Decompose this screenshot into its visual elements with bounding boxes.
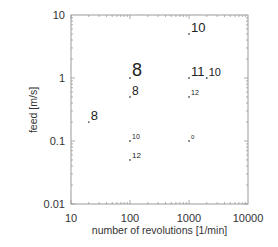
point-marker [129, 159, 131, 161]
data-point: 12 [188, 89, 199, 98]
x-tick-label: 1000 [177, 212, 201, 224]
point-label: 0 [191, 134, 195, 140]
scatter-chart: 10100100010000 1010.10.01 88810121011101… [0, 0, 278, 247]
point-label: 12 [132, 151, 141, 160]
x-tick-label: 100 [121, 212, 139, 224]
y-tick-label: 1 [59, 72, 65, 84]
data-point: 8 [88, 108, 98, 123]
x-tick-labels: 10100100010000 [65, 212, 263, 224]
data-point: 11 [188, 64, 204, 79]
point-label: 8 [132, 84, 139, 98]
data-point: 0 [188, 134, 195, 142]
data-point: 12 [129, 151, 141, 161]
point-marker [129, 77, 131, 79]
point-marker [129, 140, 131, 142]
point-label: 10 [209, 66, 221, 78]
point-label: 8 [91, 108, 98, 123]
point-label: 10 [132, 133, 140, 140]
point-marker [188, 33, 190, 35]
data-points: 8881012101110120 [88, 20, 221, 161]
point-marker [188, 77, 190, 79]
data-point: 10 [129, 133, 140, 142]
y-tick-label: 10 [53, 9, 65, 21]
point-marker [206, 77, 208, 79]
point-marker [88, 121, 90, 123]
point-marker [188, 96, 190, 98]
data-point: 8 [129, 84, 139, 98]
x-tick-label: 10 [65, 212, 77, 224]
point-label: 12 [191, 89, 199, 96]
data-point: 8 [129, 60, 142, 80]
point-label: 11 [191, 64, 205, 79]
y-axis-label: feed [m/s] [27, 87, 39, 133]
data-point: 10 [206, 66, 221, 79]
x-tick-label: 10000 [233, 212, 264, 224]
x-axis-label: number of revolutions [1/min] [92, 224, 227, 236]
data-point: 10 [188, 20, 205, 35]
point-label: 8 [132, 60, 142, 80]
point-marker [129, 96, 131, 98]
point-label: 10 [191, 20, 205, 35]
y-tick-labels: 1010.10.01 [44, 9, 65, 210]
point-marker [188, 140, 190, 142]
y-tick-label: 0.1 [50, 135, 65, 147]
y-tick-label: 0.01 [44, 198, 65, 210]
